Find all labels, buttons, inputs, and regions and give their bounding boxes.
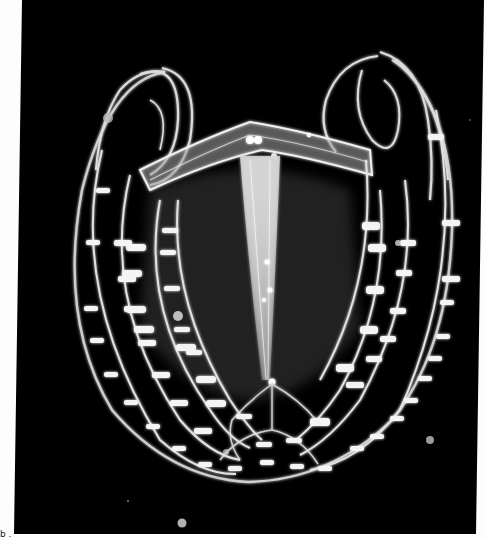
statocyst-right bbox=[254, 136, 262, 144]
left-lobe-spot bbox=[103, 113, 113, 123]
caption-mark: b . bbox=[0, 528, 11, 540]
statocyst-left bbox=[246, 136, 254, 144]
photo-canvas: b . bbox=[0, 0, 486, 540]
ctenophore-photo bbox=[0, 0, 486, 540]
